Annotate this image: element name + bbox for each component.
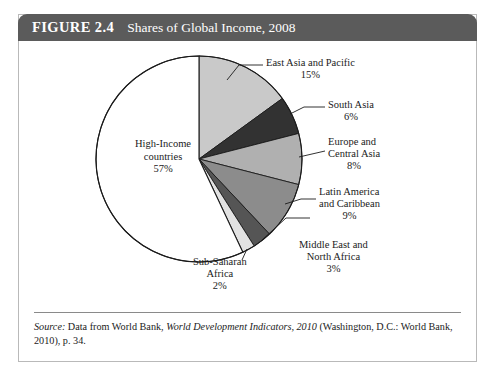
source-label: Source: [34,321,65,332]
pie-label-europe-name-line1: Europe and [328,136,380,148]
pie-label-south-asia: South Asia 6% [328,99,374,123]
source-note: Source: Data from World Bank, World Deve… [34,320,466,347]
pie-chart-area: East Asia and Pacific 15% South Asia 6% … [18,41,477,303]
pie-label-south-asia-name: South Asia [328,99,374,111]
leader-line-europe [299,151,325,157]
pie-label-east-asia-and-pacific: East Asia and Pacific 15% [266,57,355,81]
pie-label-sub-saharan-africa: Sub-Saharan Africa 2% [193,256,247,292]
source-divider [34,312,461,313]
pie-label-latin-name-line2: and Caribbean [319,198,380,210]
source-publication-title: World Development Indicators, 2010 [166,321,317,332]
leader-line-south-asia [290,107,325,114]
pie-label-highincome-name-line2: countries [117,151,209,164]
pie-label-highincome-value: 57% [117,163,209,176]
pie-label-mideast-value: 3% [299,263,368,275]
pie-label-latin-value: 9% [319,210,380,222]
figure-title-text: Shares of Global Income, 2008 [127,20,295,36]
pie-label-south-asia-value: 6% [328,111,374,123]
pie-label-europe-name-line2: Central Asia [328,148,380,160]
pie-chart-svg [18,41,477,303]
pie-label-highincome-name-line1: High-Income [117,138,209,151]
pie-label-latin-name-line1: Latin America [319,186,380,198]
pie-label-europe-value: 8% [328,160,380,172]
pie-label-east-asia-value: 15% [266,69,355,81]
pie-label-mideast-name-line1: Middle East and [299,239,368,251]
pie-label-mideast-name-line2: North Africa [299,251,368,263]
figure-title-bar: FIGURE 2.4 Shares of Global Income, 2008 [18,14,477,41]
pie-label-europe-and-central-asia: Europe and Central Asia 8% [328,136,380,172]
pie-label-middle-east-and-north-africa: Middle East and North Africa 3% [299,239,368,275]
pie-label-east-asia-name: East Asia and Pacific [266,57,355,69]
pie-label-latin-america-and-caribbean: Latin America and Caribbean 9% [319,186,380,222]
pie-label-high-income-countries: High-Income countries 57% [117,138,209,176]
pie-label-subsaharan-name-line2: Africa [193,268,247,280]
source-text-part1: Data from World Bank, [65,321,166,332]
pie-label-subsaharan-name-line1: Sub-Saharan [193,256,247,268]
figure-number: FIGURE 2.4 [32,19,114,36]
figure-title-group: FIGURE 2.4 Shares of Global Income, 2008 [18,19,296,36]
pie-label-subsaharan-value: 2% [193,280,247,292]
